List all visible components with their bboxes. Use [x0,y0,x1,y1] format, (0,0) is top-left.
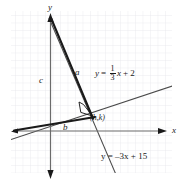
label-side-b: b [63,123,68,132]
y-axis-label: y [48,3,52,12]
equation-1-operator: + [123,69,128,78]
equation-1-numerator: 1 [110,65,116,73]
equation-1-constant: 2 [130,69,135,78]
grid [11,11,172,173]
equation-1-fraction: 1 3 [110,65,116,82]
equation-line-1: y = 1 3 x + 2 [95,65,135,82]
diagram-canvas [0,0,183,184]
label-side-a: a [75,68,80,77]
equation-1-denominator: 3 [110,74,116,82]
label-point-h-k: (h,k) [90,114,105,122]
equation-1-variable: x [117,69,121,78]
equation-line-2: y = –3x + 15 [101,152,147,161]
equation-1-lhs: y [95,69,99,78]
x-axis-label: x [172,126,176,135]
label-side-c: c [39,76,43,85]
coordinate-plane-diagram: y x a b c (h,k) y = 1 3 x + 2 y = –3x + … [0,0,183,184]
equation-1-equals: = [101,69,106,78]
